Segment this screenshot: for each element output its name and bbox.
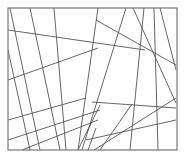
line-segment: [100, 104, 132, 150]
line-segment: [154, 8, 158, 150]
line-segment: [94, 98, 176, 150]
line-art-diagram: [0, 0, 184, 157]
line-segment: [8, 30, 145, 50]
line-composition-canvas: [0, 0, 184, 157]
frame-border: [8, 8, 177, 150]
line-group: [8, 8, 176, 150]
line-segment: [8, 50, 30, 150]
line-segment: [96, 20, 176, 65]
